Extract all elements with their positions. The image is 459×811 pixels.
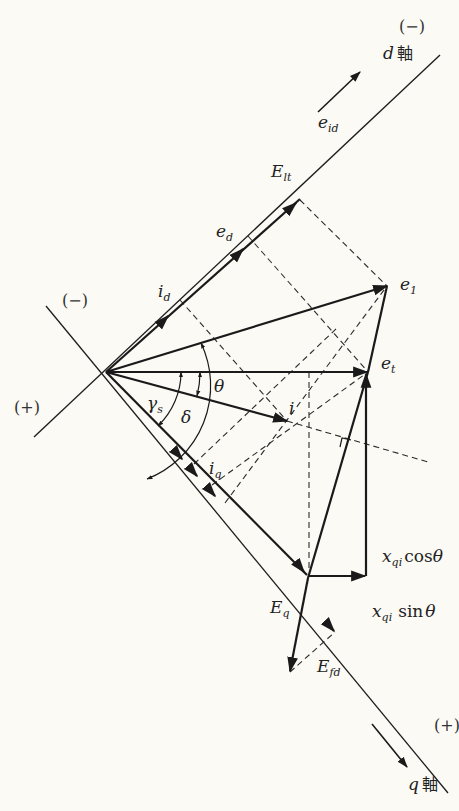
dashed-iq3 <box>225 286 387 503</box>
label-Efd: Efd <box>316 656 341 679</box>
q-axis-sign-bottom: (+) <box>434 716 459 735</box>
label-id: id <box>158 281 170 304</box>
d-axis-sign-top: (−) <box>399 17 425 36</box>
d-axis-line <box>34 55 440 437</box>
dashed-eid-to-e1 <box>300 200 387 286</box>
arrow-iq3 <box>208 488 215 496</box>
label-delta: δ <box>181 407 191 427</box>
label-Elt: Elt <box>270 161 292 184</box>
label-et: et <box>381 353 396 376</box>
dashed-i-perp-extension <box>287 421 428 462</box>
label-gamma-s: γs <box>147 393 163 416</box>
dashed-iq2 <box>212 372 368 485</box>
arrow-to-eq <box>296 562 304 572</box>
label-eid: eid <box>318 112 339 135</box>
eid-direction-arrow <box>318 72 360 112</box>
label-i: i <box>289 398 294 418</box>
dashed-id-to-i <box>180 300 287 421</box>
label-e1: e1 <box>400 274 417 297</box>
vector-i <box>106 372 287 421</box>
label-xqi-sin-theta: xqisinθ <box>372 601 436 624</box>
label-ed: ed <box>216 221 233 244</box>
phasor-diagram: (−) d軸 eid Elt ed id (−) e1 et θ (+) γs … <box>0 0 459 811</box>
dashed-iq1 <box>194 328 337 464</box>
vector-efd <box>290 578 308 671</box>
label-xqi-cos-theta: xqicosθ <box>382 546 443 569</box>
arrow-efd-axis <box>326 622 334 631</box>
arrow-ed <box>234 249 243 258</box>
arrow-iq2 <box>190 468 197 476</box>
label-iq: iq <box>209 458 221 481</box>
arrow-iq1 <box>175 451 182 459</box>
arc-delta <box>158 372 181 426</box>
label-theta: θ <box>214 376 224 396</box>
arrow-elt <box>286 203 296 212</box>
dashed-ed-to-et <box>248 236 368 372</box>
q-axis-label: q軸 <box>408 774 438 794</box>
q-axis-sign-left: (+) <box>14 398 40 417</box>
arc-theta <box>197 372 200 396</box>
label-Eq: Eq <box>269 597 289 620</box>
d-axis-sign-left: (−) <box>62 291 88 310</box>
vector-q-components <box>106 372 307 575</box>
q-direction-arrow <box>372 724 407 767</box>
d-axis-label: d軸 <box>383 43 413 63</box>
segment-et-to-eq <box>308 372 368 578</box>
